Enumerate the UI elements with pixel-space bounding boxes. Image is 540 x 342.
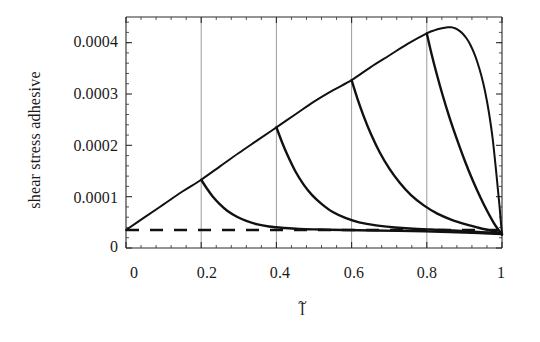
gridlines [201, 17, 427, 248]
axis-ticks [126, 17, 502, 248]
series-envelope [126, 27, 502, 232]
chart-figure: shear stress adhesive 0.0004 0.0003 0.00… [0, 0, 540, 342]
series-decay-0.4 [276, 127, 502, 234]
series-decay-0.8 [427, 33, 502, 234]
plot-frame [126, 17, 502, 248]
plot-area [0, 0, 540, 342]
data-series [126, 27, 502, 235]
